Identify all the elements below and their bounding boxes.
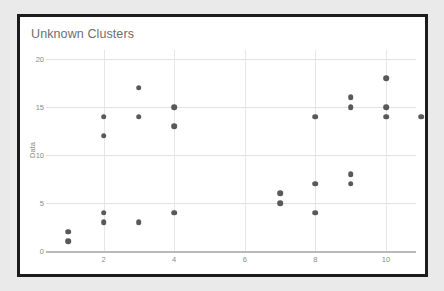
x-tick-label: 4 bbox=[172, 255, 176, 264]
scatter-point bbox=[383, 75, 389, 81]
y-tick-label: 15 bbox=[22, 103, 44, 112]
scatter-point bbox=[313, 114, 319, 120]
x-tick-label: 10 bbox=[382, 255, 390, 264]
scatter-point bbox=[419, 114, 425, 120]
scatter-point bbox=[171, 123, 177, 129]
scatter-point bbox=[136, 85, 142, 91]
gridline-y-10 bbox=[46, 155, 416, 156]
x-tick-label: 2 bbox=[102, 255, 106, 264]
scatter-point bbox=[136, 114, 142, 120]
scatter-point bbox=[101, 219, 107, 225]
gridline-y-5 bbox=[46, 203, 416, 204]
y-tick-label: 20 bbox=[22, 55, 44, 64]
scatter-point bbox=[66, 239, 72, 245]
gridline-x-8 bbox=[315, 50, 316, 251]
gridline-y-15 bbox=[46, 107, 416, 108]
gridline-x-4 bbox=[174, 50, 175, 251]
gridline-y-20 bbox=[46, 59, 416, 60]
scatter-point bbox=[348, 95, 354, 101]
scatter-point bbox=[348, 181, 354, 187]
y-tick-label: 5 bbox=[22, 199, 44, 208]
scatter-point bbox=[383, 104, 389, 110]
x-tick-label: 8 bbox=[313, 255, 317, 264]
scatter-point bbox=[136, 219, 142, 225]
scatter-point bbox=[277, 191, 283, 197]
scatter-point bbox=[277, 200, 283, 206]
scatter-point bbox=[348, 171, 354, 177]
scatter-chart-card: Unknown Clusters 05101520 246810 Data bbox=[17, 14, 428, 277]
x-axis-line bbox=[46, 251, 416, 253]
y-axis-title: Data bbox=[28, 142, 37, 158]
scatter-point bbox=[383, 114, 389, 120]
scatter-point bbox=[171, 104, 177, 110]
x-tick-label: 6 bbox=[243, 255, 247, 264]
scatter-point bbox=[66, 229, 72, 235]
scatter-point bbox=[101, 133, 107, 139]
scatter-point bbox=[313, 210, 319, 216]
gridline-x-6 bbox=[245, 50, 246, 251]
scatter-point bbox=[101, 210, 107, 216]
scatter-point bbox=[171, 210, 177, 216]
scatter-point bbox=[313, 181, 319, 187]
y-tick-label: 0 bbox=[22, 247, 44, 256]
scatter-point bbox=[101, 114, 107, 120]
scatter-point bbox=[348, 104, 354, 110]
plot-area: 05101520 246810 bbox=[20, 17, 425, 274]
